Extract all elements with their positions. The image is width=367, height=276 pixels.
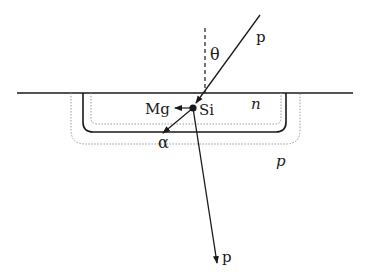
alpha-particle-label: α (158, 133, 169, 152)
target-si-label: Si (199, 101, 214, 119)
si-nucleus-dot (189, 104, 196, 111)
angle-theta-label: θ (210, 45, 220, 64)
incoming-trajectory-arrow (196, 15, 260, 103)
outer-dotted-boundary (71, 93, 300, 144)
nuclear-reaction-diagram: p θ Mg Si n α p p (0, 0, 367, 276)
p-region-label: p (276, 152, 286, 170)
n-region-label: n (251, 95, 261, 113)
outgoing-particle-label: p (222, 248, 232, 266)
recoil-mg-label: Mg (145, 100, 170, 118)
incident-particle-label: p (256, 28, 266, 46)
